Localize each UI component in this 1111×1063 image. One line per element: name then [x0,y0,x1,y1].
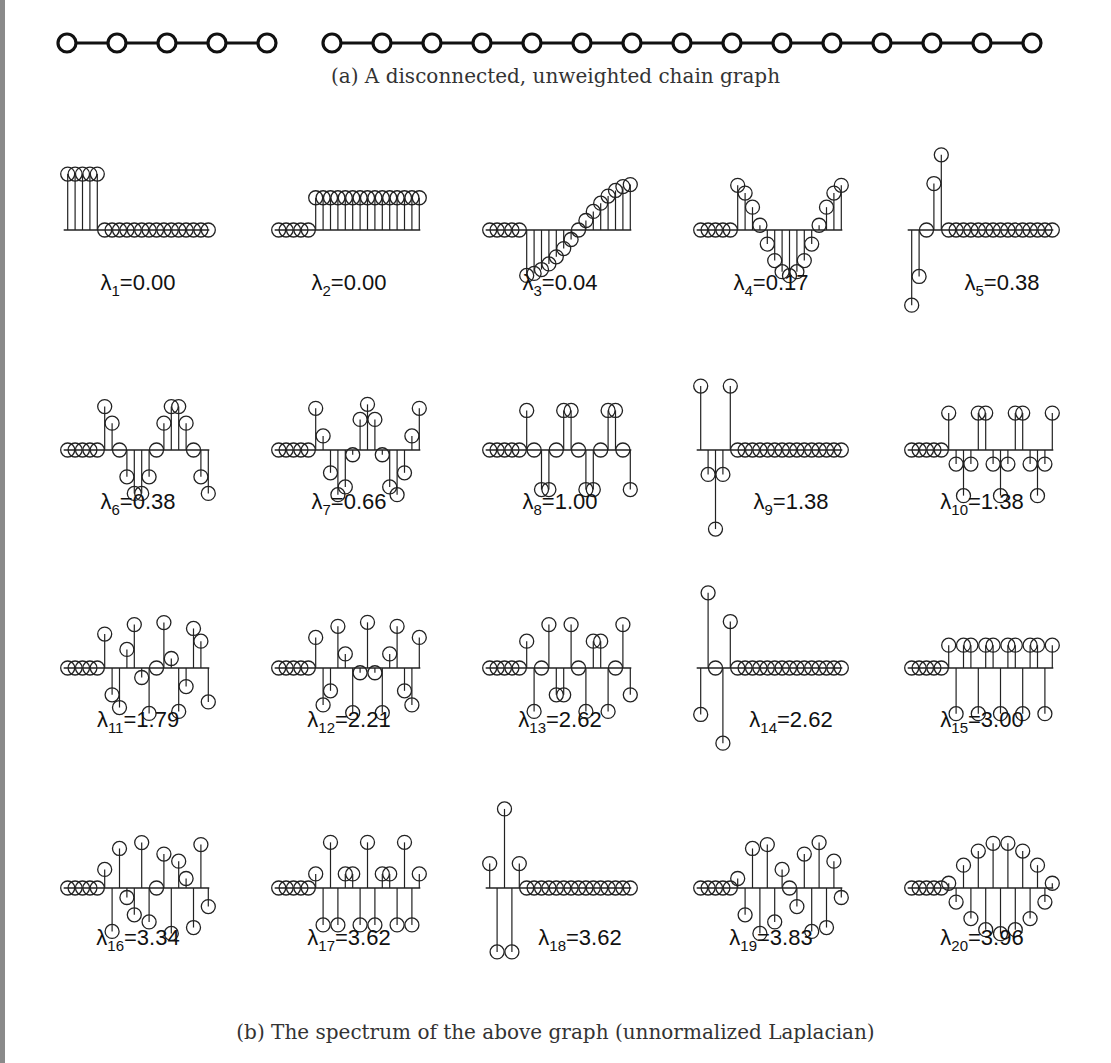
eigenvalue-text: =2.62 [777,707,833,732]
eigenvalue-label-5: λ5=0.38 [912,270,1092,299]
eigenvalue-text: =0.66 [331,489,387,514]
stem-plot-lambda-8 [483,403,638,496]
lambda-symbol: λ [753,489,764,514]
stem-plot-lambda-13 [483,618,638,719]
eigenvalue-label-14: λ14=2.62 [701,707,881,736]
caption-a: (a) A disconnected, unweighted chain gra… [0,64,1111,88]
stem-plot-lambda-2 [272,191,427,237]
caption-b: (b) The spectrum of the above graph (unn… [0,1020,1111,1044]
figure-canvas [0,0,1111,1063]
eigenvalue-text: =3.83 [757,925,813,950]
lambda-symbol: λ [733,270,744,295]
eigenvalue-text: =0.17 [753,270,809,295]
stem-plot-lambda-17 [272,835,427,932]
lambda-subscript: 17 [318,937,335,954]
eigenvalue-text: =1.00 [542,489,598,514]
lambda-subscript: 14 [760,719,777,736]
eigenvalue-label-12: λ12=2.21 [259,707,439,736]
lambda-subscript: 13 [529,719,546,736]
eigenvalue-label-9: λ9=1.38 [701,489,881,518]
graph-node-icon [58,34,76,52]
graph-node-icon [523,34,541,52]
graph-node-icon [108,34,126,52]
lambda-subscript: 2 [322,282,330,299]
stem-plot-lambda-1 [61,167,216,237]
graph-node-icon [673,34,691,52]
lambda-subscript: 9 [764,501,772,518]
lambda-subscript: 20 [951,937,968,954]
eigenvalue-text: =0.00 [120,270,176,295]
graph-node-icon [823,34,841,52]
lambda-symbol: λ [311,489,322,514]
eigenvalue-label-10: λ10=1.38 [892,489,1072,518]
eigenvalue-label-20: λ20=3.96 [892,925,1072,954]
lambda-subscript: 3 [533,282,541,299]
lambda-subscript: 5 [975,282,983,299]
eigenvalue-text: =0.38 [120,489,176,514]
lambda-symbol: λ [522,489,533,514]
lambda-subscript: 11 [108,719,124,736]
eigenvalue-text: =3.62 [335,925,391,950]
stem-plot-lambda-7 [272,397,427,501]
lambda-symbol: λ [307,707,318,732]
eigenvalue-text: =0.38 [984,270,1040,295]
lambda-subscript: 4 [744,282,752,299]
eigenvalue-label-13: λ13=2.62 [470,707,650,736]
lambda-subscript: 18 [549,937,566,954]
eigenvalue-text: =2.62 [546,707,602,732]
lambda-symbol: λ [100,270,111,295]
eigenvalue-text: =1.79 [123,707,179,732]
eigenvalue-text: =3.34 [124,925,180,950]
stem-plot-lambda-11 [61,616,216,721]
chain-component-chain-B [323,34,1041,52]
lambda-subscript: 6 [111,501,119,518]
graph-node-icon [473,34,491,52]
lambda-subscript: 7 [322,501,330,518]
eigenvalue-text: =2.21 [335,707,391,732]
lambda-symbol: λ [729,925,740,950]
graph-node-icon [323,34,341,52]
lambda-subscript: 16 [107,937,124,954]
eigenvalue-label-4: λ4=0.17 [681,270,861,299]
lambda-symbol: λ [940,707,951,732]
graph-node-icon [773,34,791,52]
eigenvalue-text: =1.38 [773,489,829,514]
graph-node-icon [873,34,891,52]
eigenvalue-text: =3.62 [566,925,622,950]
lambda-subscript: 19 [740,937,757,954]
lambda-symbol: λ [964,270,975,295]
graph-node-icon [208,34,226,52]
eigenvalue-text: =0.04 [542,270,598,295]
graph-node-icon [973,34,991,52]
chain-graph-diagram [58,34,1041,52]
eigenvalue-label-7: λ7=0.66 [259,489,439,518]
lambda-symbol: λ [538,925,549,950]
lambda-symbol: λ [522,270,533,295]
lambda-symbol: λ [518,707,529,732]
graph-node-icon [258,34,276,52]
eigenvalue-label-1: λ1=0.00 [48,270,228,299]
eigenvalue-label-19: λ19=3.83 [681,925,861,954]
lambda-symbol: λ [311,270,322,295]
stem-plot-lambda-4 [694,178,849,282]
eigenvalue-text: =1.38 [968,489,1024,514]
stem-plot-lambda-12 [272,615,427,719]
lambda-symbol: λ [307,925,318,950]
eigenvalue-label-3: λ3=0.04 [470,270,650,299]
lambda-symbol: λ [96,925,107,950]
chain-component-chain-A [58,34,276,52]
lambda-symbol: λ [940,925,951,950]
stem-plot-lambda-3 [483,178,638,283]
graph-node-icon [623,34,641,52]
eigenvalue-label-16: λ16=3.34 [48,925,228,954]
lambda-subscript: 12 [318,719,335,736]
eigenvalue-label-8: λ8=1.00 [470,489,650,518]
lambda-subscript: 8 [533,501,541,518]
eigenvalue-text: =3.96 [968,925,1024,950]
lambda-symbol: λ [940,489,951,514]
graph-node-icon [423,34,441,52]
eigenvalue-label-6: λ6=0.38 [48,489,228,518]
eigenvalue-label-11: λ11=1.79 [48,707,228,736]
eigenvalue-label-18: λ18=3.62 [490,925,670,954]
eigenvalue-label-15: λ15=3.00 [892,707,1072,736]
